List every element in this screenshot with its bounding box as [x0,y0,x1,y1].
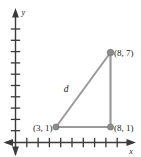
x-axis-label: x [128,147,133,156]
point-marker-a [53,124,59,130]
distance-label: d [64,84,69,94]
point-label-c: (8, 7) [114,48,134,58]
x-axis-arrow-left-icon [4,139,14,146]
coordinate-plane-figure: y x [0,0,141,157]
point-marker-c [107,49,114,56]
x-axis: x [4,138,137,156]
point-label-b: (8, 1) [114,123,134,133]
point-marker-b [107,124,113,130]
point-label-a: (3, 1) [33,123,53,133]
y-axis-arrow-up-icon [12,8,19,18]
y-axis-label: y [21,8,26,17]
x-axis-arrow-right-icon [127,139,137,146]
y-axis: y [11,8,26,156]
y-axis-arrow-down-icon [12,147,19,157]
